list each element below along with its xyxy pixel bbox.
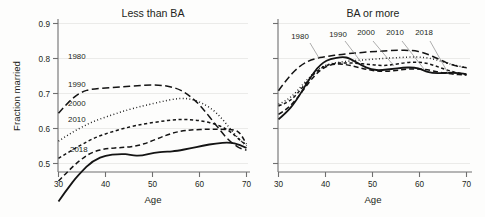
left-label-2018: 2018 — [70, 145, 88, 154]
chart-svg: 0.9 0.8 0.7 0.6 0.5 30 40 50 60 70 Less … — [0, 0, 485, 217]
left-ytick-0.9: 0.9 — [39, 20, 51, 29]
right-label-1980: 1980 — [291, 32, 309, 41]
right-xtick-60: 60 — [415, 180, 425, 189]
right-curves — [279, 50, 467, 119]
left-label-2000: 2000 — [68, 99, 86, 108]
right-leader-lines — [310, 41, 448, 73]
left-ytick-0.5: 0.5 — [39, 160, 51, 169]
right-x-axis-title: Age — [364, 194, 381, 205]
right-gridlines — [278, 24, 470, 164]
left-x-ticks — [59, 172, 247, 177]
figure-root: 0.9 0.8 0.7 0.6 0.5 30 40 50 60 70 Less … — [0, 0, 485, 217]
right-label-1990: 1990 — [329, 30, 347, 39]
panel-less-than-ba: 0.9 0.8 0.7 0.6 0.5 30 40 50 60 70 Less … — [11, 7, 251, 205]
right-label-2010: 2010 — [386, 28, 404, 37]
right-x-ticks — [279, 172, 467, 177]
left-xtick-70: 70 — [242, 180, 252, 189]
left-ytick-0.6: 0.6 — [39, 125, 51, 134]
y-axis-title: Fraction married — [11, 61, 22, 131]
right-label-2018: 2018 — [415, 28, 433, 37]
left-xtick-30: 30 — [54, 180, 64, 189]
left-x-axis-title: Age — [144, 194, 161, 205]
left-label-1980: 1980 — [68, 52, 86, 61]
left-label-1990: 1990 — [68, 80, 86, 89]
left-ytick-0.8: 0.8 — [39, 55, 51, 64]
curve-right-1990 — [279, 57, 467, 104]
left-xtick-50: 50 — [148, 180, 158, 189]
right-xtick-40: 40 — [321, 180, 331, 189]
panel-ba-or-more: 30 40 50 60 70 BA or more Age — [273, 7, 472, 205]
curve-right-2010 — [279, 64, 467, 114]
left-label-2010: 2010 — [68, 115, 86, 124]
right-label-2000: 2000 — [357, 28, 375, 37]
left-ytick-0.7: 0.7 — [39, 90, 51, 99]
right-xtick-50: 50 — [368, 180, 378, 189]
left-panel-title: Less than BA — [121, 7, 185, 19]
left-xtick-60: 60 — [195, 180, 205, 189]
right-xtick-30: 30 — [274, 180, 284, 189]
right-panel-title: BA or more — [347, 7, 400, 19]
left-y-ticks — [53, 24, 58, 164]
right-y-ticks — [273, 24, 278, 164]
left-xtick-40: 40 — [101, 180, 111, 189]
right-xtick-70: 70 — [462, 180, 472, 189]
